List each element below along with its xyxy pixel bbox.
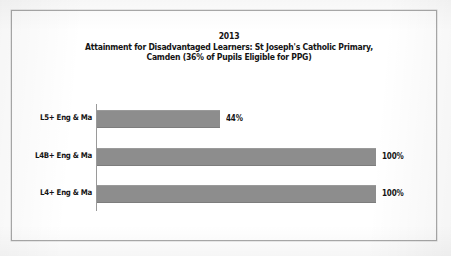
value-label-l4: 100% — [382, 189, 404, 199]
bar-l5[interactable] — [97, 110, 220, 128]
plot-area: L5+ Eng & Ma 44% L4B+ Eng & Ma 100% L4+ … — [0, 0, 451, 256]
bar-l4[interactable] — [97, 185, 376, 203]
bar-row: L4+ Eng & Ma 100% — [0, 185, 451, 203]
scanned-page: 2013 Attainment for Disadvantaged Learne… — [0, 0, 451, 256]
category-label-l4b: L4B+ Eng & Ma — [20, 151, 92, 161]
bar-row: L5+ Eng & Ma 44% — [0, 110, 451, 128]
bar-row: L4B+ Eng & Ma 100% — [0, 148, 451, 166]
category-label-l5: L5+ Eng & Ma — [20, 113, 92, 123]
bar-l4b[interactable] — [97, 148, 376, 166]
value-label-l5: 44% — [226, 114, 243, 124]
value-label-l4b: 100% — [382, 152, 404, 162]
category-label-l4: L4+ Eng & Ma — [20, 188, 92, 198]
